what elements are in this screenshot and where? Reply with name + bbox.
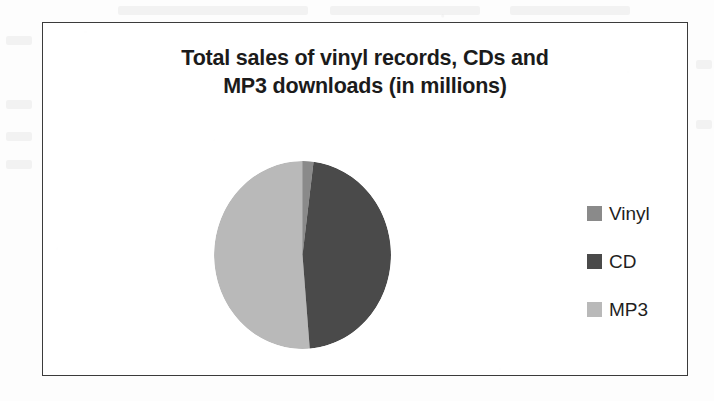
scanned-page: Total sales of vinyl records, CDs and MP… xyxy=(0,0,714,401)
legend-label: MP3 xyxy=(609,300,648,319)
ghost-text-line xyxy=(118,6,308,15)
legend-swatch-icon xyxy=(587,254,602,269)
legend-item-vinyl[interactable]: Vinyl xyxy=(587,189,683,237)
chart-title: Total sales of vinyl records, CDs and MP… xyxy=(43,45,687,101)
legend-item-cd[interactable]: CD xyxy=(587,237,683,285)
legend-swatch-icon xyxy=(587,206,602,221)
legend-swatch-icon xyxy=(587,302,602,317)
ghost-text-line xyxy=(510,6,630,15)
chart-frame: Total sales of vinyl records, CDs and MP… xyxy=(42,22,688,376)
legend-item-mp3[interactable]: MP3 xyxy=(587,285,683,333)
ghost-text-line xyxy=(6,36,32,45)
ghost-text-line xyxy=(6,132,32,141)
ghost-text-line xyxy=(696,120,712,129)
ghost-text-line xyxy=(696,60,712,69)
ghost-text-line xyxy=(6,100,32,109)
legend-label: Vinyl xyxy=(609,204,650,223)
pie-chart xyxy=(214,161,391,349)
ghost-text-line xyxy=(6,160,32,169)
legend-label: CD xyxy=(609,252,636,271)
ghost-text-line xyxy=(330,6,480,15)
pie-slice-cd xyxy=(303,162,392,349)
chart-legend: Vinyl CD MP3 xyxy=(587,189,683,333)
